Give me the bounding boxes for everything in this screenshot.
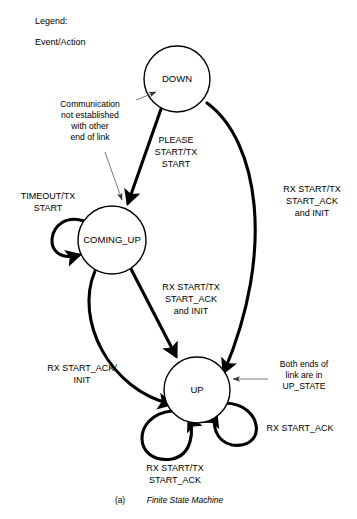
legend-format: Event/Action (35, 37, 86, 47)
figure-caption: (a) Finite State Machine (115, 495, 224, 505)
edge-label-line: START_ACK (149, 475, 201, 485)
edge-label-line: PLEASE (158, 135, 193, 145)
edge-label-down-to-up: RX START/TX START_ACK and INIT (283, 184, 341, 218)
edge-label-line: RX START/TX (146, 463, 204, 473)
state-node-down[interactable]: DOWN (144, 46, 210, 112)
edge-label-line: and INIT (174, 306, 209, 316)
edge-label-coming-up-self-loop: TIMEOUT/TX START (21, 191, 76, 213)
edge-label-line: and INIT (295, 208, 330, 218)
edge-label-line: START/TX (155, 147, 198, 157)
edge-label-up-self-loop-bottom: RX START/TX START_ACK (146, 463, 204, 485)
annotation-line: link are in (286, 370, 323, 380)
leader-line-to-coming-up (105, 152, 122, 200)
edge-label-line: START_ACK (165, 294, 217, 304)
edge-down-to-up (207, 103, 255, 372)
state-machine-diagram: DOWN COMING_UP UP PLEASE START/TX START … (0, 0, 357, 519)
annotation-line: UP_STATE (282, 381, 325, 391)
edge-label-line: START_ACK (286, 196, 338, 206)
state-node-up[interactable]: UP (164, 357, 230, 423)
edge-label-line: START (162, 159, 191, 169)
legend-title: Legend: (35, 16, 68, 26)
annotation-line: not established (61, 110, 119, 120)
edge-label-line: RX START/TX (162, 282, 220, 292)
edge-label-up-self-loop-right: RX START_ACK (266, 423, 333, 433)
edge-label-line: START (34, 203, 63, 213)
edge-label-line: TIMEOUT/TX (21, 191, 76, 201)
annotation-line: Both ends of (280, 359, 329, 369)
caption-index: (a) (115, 495, 125, 505)
annotation-line: Communication (60, 99, 120, 109)
annotation-line: with other (70, 121, 108, 131)
edge-coming-up-to-up-alt (89, 271, 171, 404)
edge-label-line: RX START/TX (283, 184, 341, 194)
state-label-up: UP (190, 384, 203, 395)
state-label-coming-up: COMING_UP (83, 234, 141, 245)
edge-label-down-to-coming-up: PLEASE START/TX START (155, 135, 198, 169)
caption-text: Finite State Machine (147, 495, 224, 505)
annotation-communication-not-established: Communication not established with other… (60, 99, 120, 142)
edge-label-coming-up-to-up: RX START/TX START_ACK and INIT (162, 282, 220, 316)
state-node-coming-up[interactable]: COMING_UP (78, 206, 146, 274)
annotation-both-ends-up-state: Both ends of link are in UP_STATE (280, 359, 329, 391)
legend: Legend: Event/Action (35, 16, 86, 47)
edge-label-line: RX START_ACK (266, 423, 333, 433)
state-label-down: DOWN (162, 73, 192, 84)
figure-finite-state-machine: DOWN COMING_UP UP PLEASE START/TX START … (0, 0, 357, 519)
edge-label-line: RX START_ACK/ (47, 363, 117, 373)
annotation-line: end of link (70, 132, 110, 142)
edge-label-line: INIT (74, 375, 92, 385)
edge-label-coming-up-to-up-alt: RX START_ACK/ INIT (47, 363, 117, 385)
